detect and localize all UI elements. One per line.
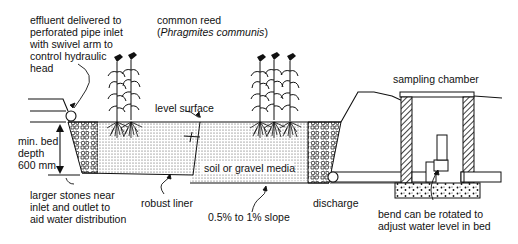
latin-name: Phragmites communis — [161, 26, 265, 38]
discharge-label: discharge — [313, 197, 359, 209]
sampling-chamber — [395, 92, 502, 198]
outlet-pipe — [328, 92, 405, 183]
larger-stones-label: larger stones near inlet and outlet to a… — [30, 189, 126, 225]
inlet-pipe — [28, 99, 76, 122]
inlet-label: effluent delivered to perforated pipe in… — [30, 14, 123, 74]
liner-label: robust liner — [141, 197, 193, 209]
paren-close: ) — [264, 26, 268, 38]
media-label: soil or gravel media — [204, 162, 295, 174]
reed-bed-diagram: effluent delivered to perforated pipe in… — [0, 0, 518, 244]
sampling-chamber-label: sampling chamber — [393, 73, 479, 85]
level-surface-label: level surface — [155, 102, 214, 114]
slope-label: 0.5% to 1% slope — [208, 211, 290, 223]
plant-latin-name: (Phragmites communis) — [157, 26, 268, 38]
bend-label: bend can be rotated to adjust water leve… — [378, 208, 491, 232]
plant-common-name: common reed — [157, 14, 221, 26]
bed-depth-label: min. bed depth 600 mm — [18, 135, 58, 171]
